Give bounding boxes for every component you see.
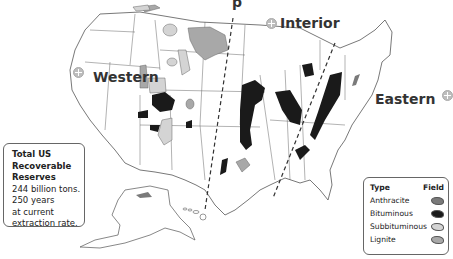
subbituminous-swatch-icon <box>431 223 444 231</box>
reserves-info-box: Total US Recoverable Reserves 244 billio… <box>3 143 85 227</box>
region-name: Western <box>93 69 159 85</box>
bituminous-swatch-icon <box>431 210 444 218</box>
region-label-eastern: Eastern <box>375 91 453 107</box>
plus-circle-icon <box>442 90 453 101</box>
legend-col-field: Field <box>423 183 444 192</box>
info-body-line: extraction rate. <box>12 218 84 230</box>
hawaii <box>183 208 206 220</box>
legend-item-lignite: Lignite <box>370 233 444 246</box>
legend-label: Subbituminous <box>370 222 427 231</box>
region-label-western: Western <box>73 69 159 85</box>
legend-label: Anthracite <box>370 196 410 205</box>
anthracite-swatch-icon <box>431 197 444 205</box>
info-heading-line: Recoverable <box>12 161 84 173</box>
map-legend: Type Field Anthracite Bituminous Subbitu… <box>363 177 449 255</box>
legend-header: Type Field <box>370 183 444 192</box>
region-name: Eastern <box>375 91 435 107</box>
info-heading-line: Reserves <box>12 172 84 184</box>
lignite-swatch-icon <box>431 236 444 244</box>
legend-label: Lignite <box>370 235 396 244</box>
region-name: Interior <box>280 15 340 31</box>
legend-item-bituminous: Bituminous <box>370 207 444 220</box>
info-body-line: at current <box>12 207 84 219</box>
us-outline <box>70 12 392 215</box>
info-heading-line: Total US <box>12 149 84 161</box>
plus-circle-icon <box>266 18 277 29</box>
legend-item-anthracite: Anthracite <box>370 194 444 207</box>
plus-circle-icon <box>73 67 84 78</box>
region-label-interior: Interior <box>266 15 340 31</box>
legend-col-type: Type <box>370 183 390 192</box>
legend-item-subbituminous: Subbituminous <box>370 220 444 233</box>
title-fragment: p <box>232 0 242 10</box>
info-body-line: 250 years <box>12 195 84 207</box>
info-body-line: 244 billion tons. <box>12 184 84 196</box>
legend-label: Bituminous <box>370 209 413 218</box>
